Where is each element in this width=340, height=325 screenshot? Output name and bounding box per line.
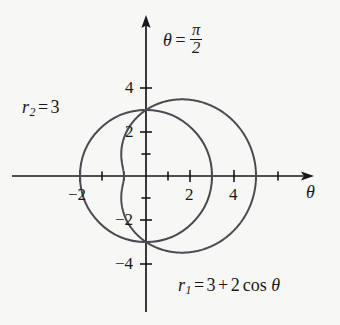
axes-group	[12, 15, 314, 312]
r1-constant: 3	[207, 275, 216, 295]
pi-over-two-fraction: π2	[189, 22, 203, 57]
x-axis-label: θ	[306, 183, 315, 201]
curve-label-r2: r2=3	[22, 98, 60, 119]
y-tick-label-neg4: −4	[115, 255, 133, 272]
x-tick-label-neg2: −2	[68, 186, 86, 203]
y-axis-label: θ=π2	[163, 22, 203, 57]
r2-symbol: r	[22, 97, 29, 117]
r1-coefficient: 2	[231, 275, 240, 295]
cos-function-name: cos	[240, 275, 267, 295]
y-tick-label-neg2: −2	[115, 211, 133, 228]
r1-equals: =	[191, 275, 206, 295]
curve-label-r1: r1=3+2cos θ	[178, 276, 280, 297]
r1-symbol: r	[178, 275, 185, 295]
r2-equals: =	[35, 97, 50, 117]
x-tick-label-4: 4	[229, 186, 238, 203]
r1-plus: +	[216, 275, 231, 295]
fraction-denominator: 2	[190, 39, 202, 57]
y-tick-label-2: 2	[125, 123, 134, 140]
y-axis-label-theta: θ	[163, 30, 172, 50]
r1-variable: θ	[271, 275, 280, 295]
x-tick-label-2: 2	[185, 186, 194, 203]
r2-value: 3	[51, 97, 60, 117]
y-tick-label-4: 4	[125, 79, 134, 96]
fraction-numerator: π	[190, 22, 202, 39]
y-axis-label-equals: =	[172, 30, 189, 50]
